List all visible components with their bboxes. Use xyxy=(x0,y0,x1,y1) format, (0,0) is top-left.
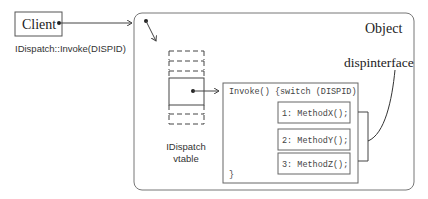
invoke-header: Invoke() {switch (DISPID) xyxy=(229,87,357,97)
method-x-label: 1: MethodX(); xyxy=(282,109,348,119)
invoke-call-label: IDispatch::Invoke(DISPID) xyxy=(15,43,126,54)
client-pointer-dot xyxy=(57,21,61,25)
invoke-closing-brace: } xyxy=(229,170,234,180)
dispinterface-diagram: Client IDispatch::Invoke(DISPID) Object … xyxy=(0,0,428,199)
method-y-label: 2: MethodY(); xyxy=(282,136,348,146)
client-box: Client xyxy=(15,12,62,36)
vtable-label-line2: vtable xyxy=(173,153,198,164)
method-row: 1: MethodX(); xyxy=(278,102,350,123)
method-z-label: 3: MethodZ(); xyxy=(282,160,348,170)
vtable-label-line1: IDispatch xyxy=(166,141,206,152)
method-row: 2: MethodY(); xyxy=(278,129,350,150)
object-label: Object xyxy=(365,21,402,36)
client-label: Client xyxy=(22,17,56,32)
method-row: 3: MethodZ(); xyxy=(278,153,350,174)
dispinterface-label: dispinterface xyxy=(344,55,414,70)
